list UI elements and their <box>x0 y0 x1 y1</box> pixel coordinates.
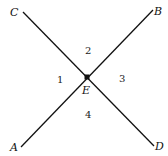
label-point-a: A <box>9 141 18 154</box>
label-angle-1: 1 <box>57 74 63 85</box>
intersecting-lines-diagram: C B A D E 1 2 3 4 <box>0 0 168 156</box>
label-point-c: C <box>10 6 19 19</box>
intersection-point-marker <box>85 75 90 80</box>
diagram-canvas: C B A D E 1 2 3 4 <box>0 0 168 156</box>
label-point-d: D <box>154 140 164 153</box>
label-angle-4: 4 <box>85 109 91 120</box>
label-point-e: E <box>81 84 90 97</box>
label-point-b: B <box>153 5 162 18</box>
label-angle-2: 2 <box>85 45 91 56</box>
label-angle-3: 3 <box>119 73 125 84</box>
